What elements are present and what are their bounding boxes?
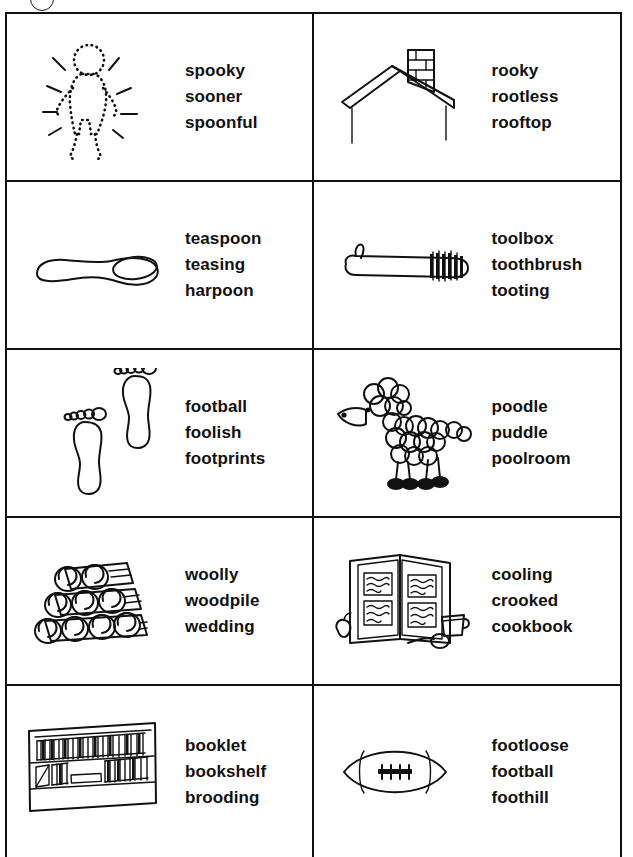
footprints-icon: [23, 368, 173, 498]
word-item: rootless: [492, 84, 621, 110]
word-list: booklet bookshelf brooding: [183, 733, 312, 811]
word-item: wedding: [185, 614, 312, 640]
table-row: woolly woodpile wedding: [7, 518, 620, 686]
word-item: toothbrush: [492, 252, 621, 278]
worksheet-cell[interactable]: toolbox toothbrush tooting: [314, 182, 621, 348]
picture-area: [314, 182, 490, 348]
picture-area: [314, 350, 490, 516]
word-item: poolroom: [492, 446, 621, 472]
word-list: football foolish footprints: [183, 394, 312, 472]
word-item: woolly: [185, 562, 312, 588]
worksheet-cell[interactable]: spooky sooner spoonful: [7, 14, 314, 180]
worksheet-cell[interactable]: booklet bookshelf brooding: [7, 686, 314, 857]
word-item: woodpile: [185, 588, 312, 614]
rooftop-with-chimney-icon: [330, 40, 480, 155]
word-list: teaspoon teasing harpoon: [183, 226, 312, 304]
word-item: puddle: [492, 420, 621, 446]
word-list: cooling crooked cookbook: [490, 562, 621, 640]
word-list: toolbox toothbrush tooting: [490, 226, 621, 304]
word-list: rooky rootless rooftop: [490, 58, 621, 136]
worksheet-grid: spooky sooner spoonful: [5, 12, 622, 857]
word-item: spoonful: [185, 110, 312, 136]
picture-area: [7, 14, 183, 180]
word-item: tooting: [492, 278, 621, 304]
word-item: footprints: [185, 446, 312, 472]
word-item: teaspoon: [185, 226, 312, 252]
worksheet-cell[interactable]: footloose football foothill: [314, 686, 621, 857]
word-item: booklet: [185, 733, 312, 759]
worksheet-cell[interactable]: rooky rootless rooftop: [314, 14, 621, 180]
picture-area: [314, 518, 490, 684]
picture-area: [7, 686, 183, 857]
worksheet-cell[interactable]: poodle puddle poolroom: [314, 350, 621, 516]
picture-area: [314, 686, 490, 857]
picture-area: [7, 350, 183, 516]
word-item: harpoon: [185, 278, 312, 304]
word-item: foolish: [185, 420, 312, 446]
word-item: brooding: [185, 785, 312, 811]
word-item: cooling: [492, 562, 621, 588]
picture-area: [314, 14, 490, 180]
word-item: foothill: [492, 785, 621, 811]
word-item: football: [492, 759, 621, 785]
word-list: poodle puddle poolroom: [490, 394, 621, 472]
word-item: crooked: [492, 588, 621, 614]
word-item: footloose: [492, 733, 621, 759]
word-list: woolly woodpile wedding: [183, 562, 312, 640]
football-icon: [330, 737, 480, 807]
worksheet-cell[interactable]: woolly woodpile wedding: [7, 518, 314, 684]
glowing-ghost-figure-icon: [23, 30, 173, 165]
word-item: rooky: [492, 58, 621, 84]
word-item: rooftop: [492, 110, 621, 136]
exercise-number-circle: [30, 0, 54, 11]
table-row: football foolish footprints: [7, 350, 620, 518]
spoon-icon: [23, 230, 173, 300]
poodle-icon: [330, 368, 480, 498]
word-item: football: [185, 394, 312, 420]
bookshelf-icon: [23, 719, 173, 824]
woodpile-icon: [23, 541, 173, 661]
worksheet-cell[interactable]: teaspoon teasing harpoon: [7, 182, 314, 348]
worksheet-cell[interactable]: football foolish footprints: [7, 350, 314, 516]
word-item: toolbox: [492, 226, 621, 252]
picture-area: [7, 182, 183, 348]
word-item: spooky: [185, 58, 312, 84]
table-row: booklet bookshelf brooding: [7, 686, 620, 857]
word-list: spooky sooner spoonful: [183, 58, 312, 136]
table-row: spooky sooner spoonful: [7, 14, 620, 182]
open-cookbook-icon: [330, 539, 480, 664]
table-row: teaspoon teasing harpoon: [7, 182, 620, 350]
word-item: bookshelf: [185, 759, 312, 785]
word-item: sooner: [185, 84, 312, 110]
word-item: cookbook: [492, 614, 621, 640]
word-item: poodle: [492, 394, 621, 420]
worksheet-cell[interactable]: cooling crooked cookbook: [314, 518, 621, 684]
word-item: teasing: [185, 252, 312, 278]
word-list: footloose football foothill: [490, 733, 621, 811]
picture-area: [7, 518, 183, 684]
toothbrush-icon: [330, 230, 480, 300]
